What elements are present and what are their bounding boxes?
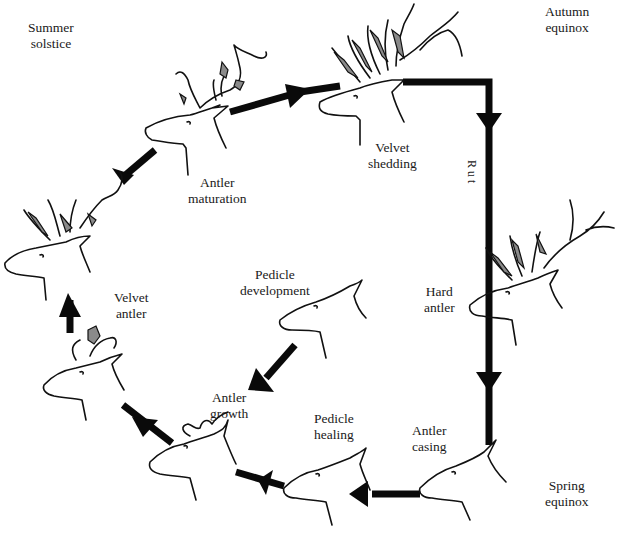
summer-solstice-line-2: solstice xyxy=(28,36,74,52)
arrow-velvet-to-maturation xyxy=(112,150,155,185)
stage-label-antler-growth: Antler growth xyxy=(210,390,248,422)
summer-solstice-label: Summer solstice xyxy=(28,20,74,52)
summer-solstice-line-1: Summer xyxy=(28,20,74,36)
stage-label-line: antler xyxy=(114,306,149,322)
stage-label-pedicle-development: Pedicle development xyxy=(240,267,310,299)
stage-label-line: Pedicle xyxy=(240,267,310,283)
deer-pedicle-healing xyxy=(284,448,370,525)
spring-equinox-line-1: Spring xyxy=(545,478,589,494)
arrow-maturation-to-shedding xyxy=(230,84,340,112)
stage-label-line: casing xyxy=(412,439,447,455)
diagram-artwork xyxy=(0,0,620,549)
arrow-growth-to-velvet xyxy=(123,405,172,443)
stage-label-line: Antler xyxy=(412,423,447,439)
arrow-velvet-up xyxy=(59,293,81,333)
deer-velvet-antler-small xyxy=(43,326,124,420)
spring-equinox-line-2: equinox xyxy=(545,494,589,510)
stage-label-line: Pedicle xyxy=(314,411,354,427)
autumn-equinox-line-1: Autumn xyxy=(545,4,589,20)
autumn-equinox-label: Autumn equinox xyxy=(545,4,589,36)
autumn-equinox-line-2: equinox xyxy=(545,20,589,36)
stage-label-line: Antler xyxy=(210,390,248,406)
antler-cycle-diagram: Summer solstice Autumn equinox Spring eq… xyxy=(0,0,620,549)
arrow-development-to-growth xyxy=(248,345,295,392)
stage-label-line: Velvet xyxy=(368,140,417,156)
stage-label-velvet-shedding: Velvet shedding xyxy=(368,140,417,172)
stage-label-line: Antler xyxy=(188,175,246,191)
arrow-healing-to-growth xyxy=(236,470,284,495)
arrow-casting-to-healing xyxy=(349,481,420,507)
stage-label-antler-casting: Antler casing xyxy=(412,423,447,455)
spring-equinox-label: Spring equinox xyxy=(545,478,589,510)
stage-label-line: shedding xyxy=(368,156,417,172)
deer-velvet-antler-large xyxy=(5,172,122,300)
arrow-rut-path xyxy=(403,82,502,445)
stage-label-pedicle-healing: Pedicle healing xyxy=(314,411,354,443)
stage-label-antler-maturation: Antler maturation xyxy=(188,175,246,207)
rut-label: Rut xyxy=(464,160,479,186)
stage-label-line: maturation xyxy=(188,191,246,207)
stage-label-line: Velvet xyxy=(114,290,149,306)
deer-velvet-shedding xyxy=(319,4,462,145)
stage-label-line: healing xyxy=(314,427,354,443)
stage-label-line: growth xyxy=(210,406,248,422)
stage-label-line: development xyxy=(240,283,310,299)
stage-label-line: antler xyxy=(424,300,455,316)
deer-antler-growth xyxy=(149,412,236,500)
stage-label-hard-antler: Hard antler xyxy=(424,284,455,316)
stage-label-line: Hard xyxy=(424,284,455,300)
stage-label-velvet-antler: Velvet antler xyxy=(114,290,149,322)
